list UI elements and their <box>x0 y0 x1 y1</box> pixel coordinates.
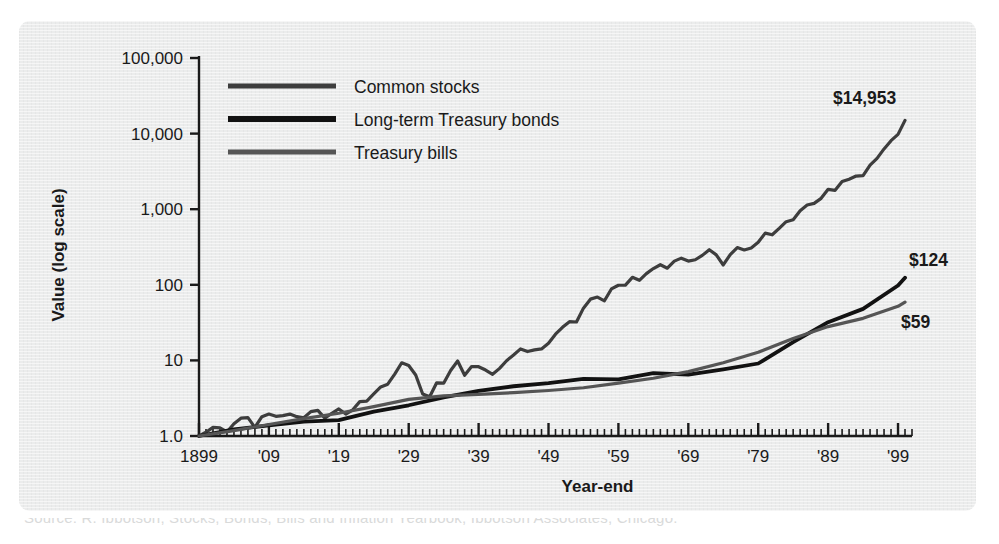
x-tick-label-3: '29 <box>398 447 420 466</box>
figure-root: Source: R. Ibbotson, Stocks, Bonds, Bill… <box>0 0 999 544</box>
legend-label-0: Common stocks <box>354 77 480 97</box>
x-tick-label-2: '19 <box>328 447 350 466</box>
end-value-label-treasury-bills: $59 <box>901 312 930 332</box>
x-tick-label-8: '79 <box>747 447 769 466</box>
x-tick-label-0: 1899 <box>180 447 218 466</box>
y-axis-title: Value (log scale) <box>49 188 68 321</box>
end-value-label-common-stocks: $14,953 <box>833 88 897 108</box>
series-line-long-term-treasury-bonds <box>199 278 905 436</box>
value-of-1-dollar-invested-1899-2000-line-chart: 1.0101001,00010,000100,0001899'09'19'29'… <box>0 0 999 544</box>
y-tick-label-0: 1.0 <box>159 427 183 446</box>
x-tick-label-5: '49 <box>537 447 559 466</box>
x-tick-label-4: '39 <box>468 447 490 466</box>
x-tick-label-10: '99 <box>887 447 909 466</box>
y-tick-label-1: 10 <box>164 351 183 370</box>
y-tick-label-2: 100 <box>155 276 183 295</box>
x-tick-label-6: '59 <box>607 447 629 466</box>
y-tick-label-4: 10,000 <box>131 125 183 144</box>
legend-label-2: Treasury bills <box>354 143 458 163</box>
x-axis-title: Year-end <box>562 477 634 496</box>
x-tick-label-1: '09 <box>258 447 280 466</box>
legend-label-1: Long-term Treasury bonds <box>354 110 559 130</box>
x-tick-label-9: '89 <box>817 447 839 466</box>
x-tick-label-7: '69 <box>677 447 699 466</box>
y-tick-label-5: 100,000 <box>122 49 183 68</box>
y-tick-label-3: 1,000 <box>140 200 183 219</box>
end-value-label-long-term-treasury-bonds: $124 <box>909 250 948 270</box>
